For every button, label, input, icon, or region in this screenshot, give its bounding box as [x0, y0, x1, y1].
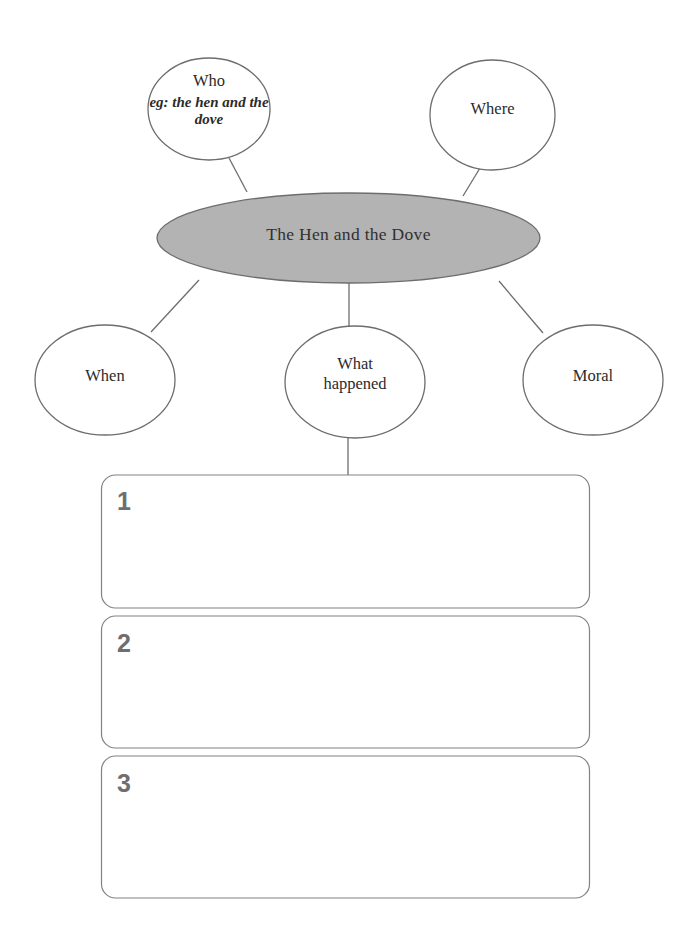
connector-center-to-when	[151, 280, 199, 332]
who-ellipse[interactable]	[148, 58, 270, 160]
connector-who-to-center	[229, 158, 247, 192]
what-happened-ellipse[interactable]	[285, 326, 425, 438]
connector-center-to-moral	[499, 281, 543, 333]
event-box-2-writing-area[interactable]	[102, 616, 590, 748]
connector-where-to-center	[463, 168, 480, 196]
center-ellipse[interactable]	[157, 193, 540, 283]
event-box-1-writing-area[interactable]	[102, 475, 590, 608]
event-box-3-writing-area[interactable]	[102, 756, 590, 898]
worksheet-canvas: The Hen and the Dove Who eg: the hen and…	[0, 0, 696, 945]
where-ellipse[interactable]	[430, 60, 555, 170]
moral-ellipse[interactable]	[523, 325, 663, 435]
when-ellipse[interactable]	[35, 325, 175, 435]
